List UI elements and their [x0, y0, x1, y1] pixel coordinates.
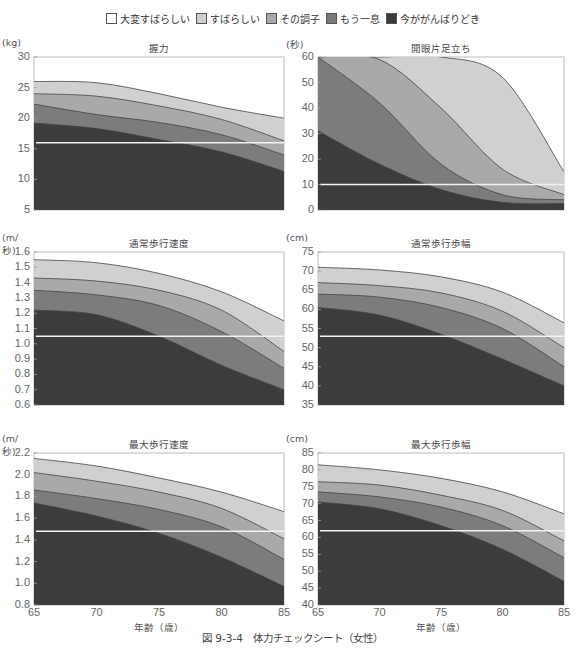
figure-caption: 図 9-3-4 体力チェックシート（女性） — [0, 630, 585, 645]
plot-area — [0, 0, 585, 650]
x-tick-label: 75 — [426, 606, 456, 618]
x-tick-label: 85 — [549, 606, 579, 618]
x-tick-label: 80 — [488, 606, 518, 618]
x-tick-label: 65 — [303, 606, 333, 618]
x-tick-label: 70 — [365, 606, 395, 618]
